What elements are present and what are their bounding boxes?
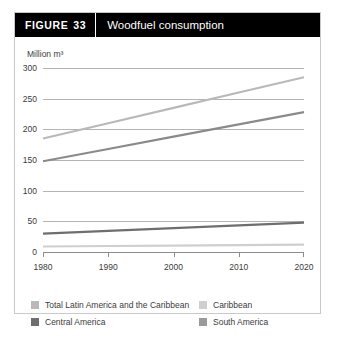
x-axis-tick-label: 1980	[34, 262, 53, 272]
legend-swatch	[31, 301, 39, 309]
legend-label: Central America	[45, 317, 105, 327]
y-axis-tick-label: 100	[23, 186, 37, 196]
legend-swatch	[199, 318, 207, 326]
header-divider	[95, 13, 96, 37]
series-line	[43, 245, 304, 247]
series-lines	[43, 68, 304, 252]
plot-area: 300250200150100500 19801990200020102020	[43, 68, 304, 252]
x-axis-tick	[108, 252, 109, 257]
x-axis-tick	[174, 252, 175, 257]
x-axis-tick	[303, 252, 304, 257]
legend-item: Caribbean	[199, 300, 311, 310]
x-axis-tick-label: 2000	[164, 262, 183, 272]
x-axis-tick-label: 2020	[295, 262, 314, 272]
figure-header-bar: FIGURE33 Woodfuel consumption	[15, 13, 320, 37]
y-axis-tick-label: 0	[32, 247, 37, 257]
series-line	[43, 223, 304, 234]
legend-item: Total Latin America and the Caribbean	[31, 300, 199, 310]
x-axis-tick-label: 1990	[99, 262, 118, 272]
legend-label: South America	[213, 317, 268, 327]
legend-item: Central America	[31, 317, 199, 327]
figure-word: FIGURE	[25, 19, 68, 31]
figure-number-label: FIGURE33	[15, 19, 86, 31]
figure-container: FIGURE33 Woodfuel consumption Million m³…	[14, 12, 321, 314]
y-axis-tick-label: 200	[23, 124, 37, 134]
y-axis-tick-label: 300	[23, 63, 37, 73]
legend-label: Caribbean	[213, 300, 252, 310]
x-axis-tick	[239, 252, 240, 257]
page-title: Woodfuel consumption	[107, 19, 224, 31]
x-axis-tick	[43, 252, 44, 257]
chart-legend: Total Latin America and the CaribbeanCar…	[31, 296, 311, 330]
series-line	[43, 77, 304, 138]
y-axis-tick-label: 250	[23, 94, 37, 104]
y-axis-tick-label: 150	[23, 155, 37, 165]
figure-index: 33	[73, 19, 86, 31]
x-axis-tick-label: 2010	[229, 262, 248, 272]
legend-item: South America	[199, 317, 311, 327]
legend-swatch	[31, 318, 39, 326]
chart-body: Million m³ 300250200150100500 1980199020…	[15, 37, 320, 315]
y-axis-title: Million m³	[27, 49, 63, 59]
legend-swatch	[199, 301, 207, 309]
y-axis-tick-label: 50	[28, 216, 37, 226]
legend-label: Total Latin America and the Caribbean	[45, 300, 189, 310]
series-line	[43, 112, 304, 161]
